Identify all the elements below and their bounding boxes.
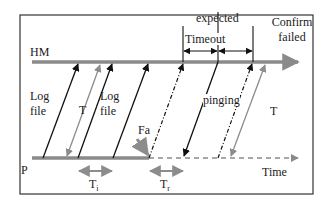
timeout-label: Timeout xyxy=(185,33,225,45)
pinging-label: pinging xyxy=(203,94,240,106)
period-label-left: T xyxy=(79,104,86,116)
hm-lane-label: HM xyxy=(30,46,49,58)
log-file-label-1: Log file xyxy=(30,90,49,117)
period-arrow-right xyxy=(231,65,265,156)
failure-arrow xyxy=(137,139,148,155)
confirm-failed-label: Confirm failed xyxy=(270,16,314,43)
time-axis-label: Time xyxy=(262,166,287,178)
expected-label: expected xyxy=(196,12,239,24)
interval-r-label: Tr xyxy=(160,178,170,195)
pinging-arrow xyxy=(184,62,218,156)
interval-i-label: Ti xyxy=(89,178,99,195)
failure-label: Fa xyxy=(138,124,150,136)
period-label-right: T xyxy=(270,105,277,117)
missed-log-arrow-1 xyxy=(149,64,183,158)
log-file-label-2: Log file xyxy=(100,90,119,117)
p-lane-label: P xyxy=(21,164,28,176)
